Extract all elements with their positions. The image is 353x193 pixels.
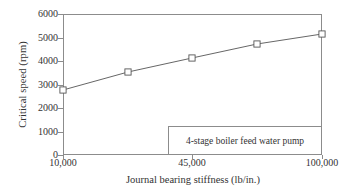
data-point-marker	[254, 41, 260, 47]
data-point-marker	[319, 31, 325, 37]
chart-figure: Critical speed (rpm) 0100020003000400050…	[0, 0, 353, 193]
data-point-marker	[125, 69, 131, 75]
data-series-layer	[0, 0, 353, 193]
x-axis-title: Journal bearing stiffness (lb/in.)	[63, 174, 323, 185]
data-point-marker	[60, 87, 66, 93]
series-markers	[60, 31, 325, 93]
annotation-label: 4-stage boiler feed water pump	[186, 136, 304, 146]
data-point-marker	[189, 55, 195, 61]
annotation-box: 4-stage boiler feed water pump	[168, 126, 322, 155]
series-line	[63, 34, 322, 90]
